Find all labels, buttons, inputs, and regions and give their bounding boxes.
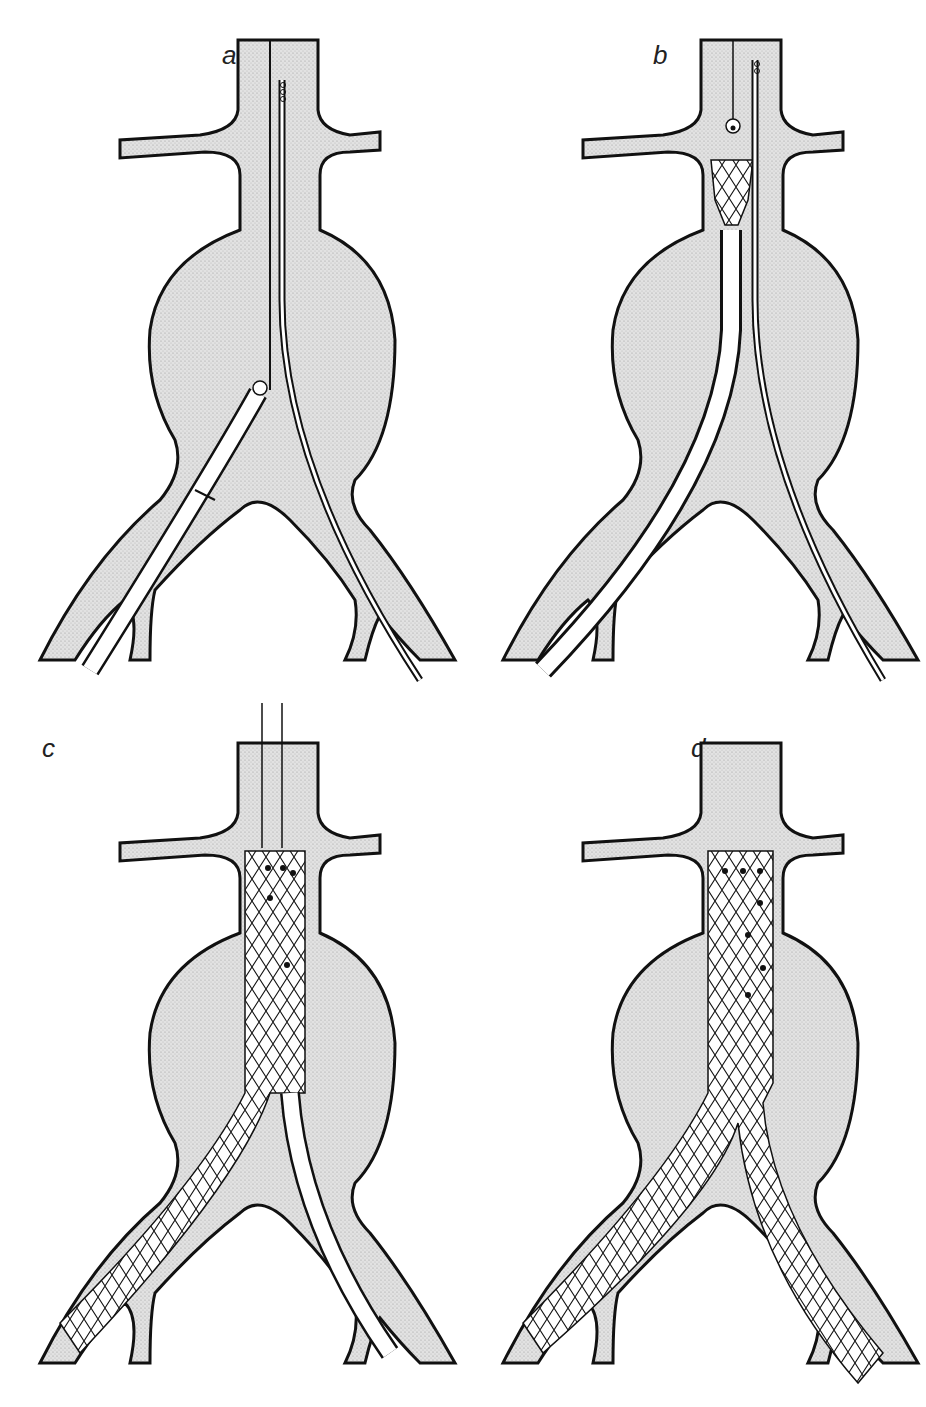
aorta-illustration-d <box>463 703 926 1406</box>
aorta-illustration-b <box>463 0 926 703</box>
aorta-illustration-a <box>0 0 463 703</box>
panel-c: c <box>0 703 463 1406</box>
aorta-illustration-c <box>0 703 463 1406</box>
panel-d: d <box>463 703 926 1406</box>
panel-b: b <box>463 0 926 703</box>
panel-a: a <box>0 0 463 703</box>
